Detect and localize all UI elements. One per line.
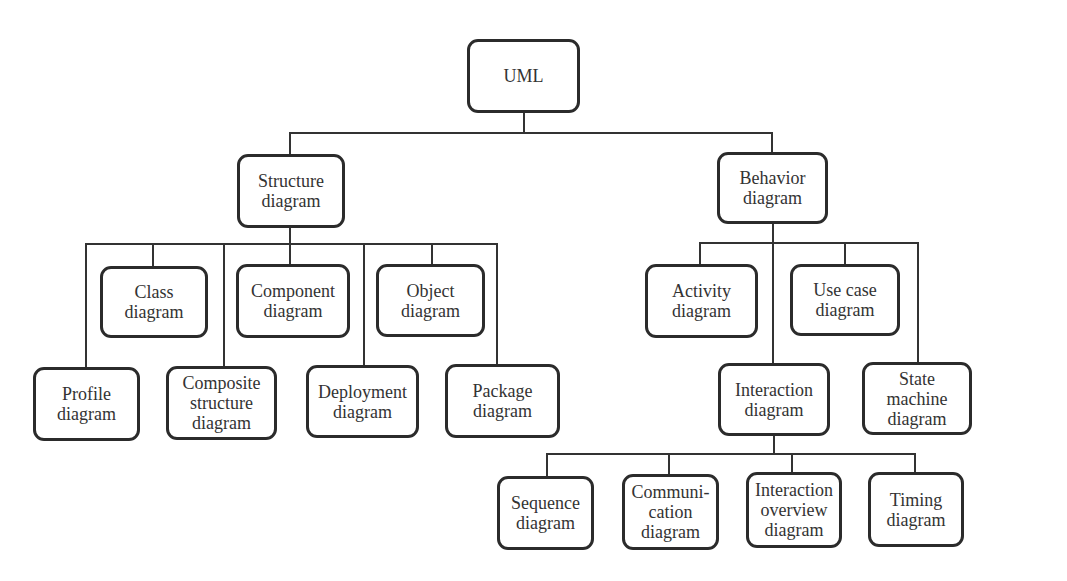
node-interaction-diagram: Interaction diagram <box>718 363 830 436</box>
node-label: Interaction diagram <box>735 380 813 420</box>
node-label: Class diagram <box>125 282 184 322</box>
node-activity-diagram: Activity diagram <box>645 264 758 338</box>
node-label: Activity diagram <box>672 281 731 321</box>
node-communication-diagram: Communi- cation diagram <box>622 474 719 550</box>
node-sequence-diagram: Sequence diagram <box>497 476 594 550</box>
node-label: Behavior diagram <box>740 168 806 208</box>
node-object-diagram: Object diagram <box>376 264 485 337</box>
node-behavior-diagram: Behavior diagram <box>717 152 828 224</box>
node-state-machine-diagram: State machine diagram <box>862 362 972 435</box>
node-structure-diagram: Structure diagram <box>237 154 345 228</box>
node-label: Timing diagram <box>887 490 946 530</box>
uml-hierarchy-diagram: UML Structure diagram Behavior diagram C… <box>0 0 1067 581</box>
node-label: Sequence diagram <box>511 493 580 533</box>
node-label: Communi- cation diagram <box>631 482 709 542</box>
node-uml: UML <box>467 39 580 113</box>
node-package-diagram: Package diagram <box>445 364 560 438</box>
node-component-diagram: Component diagram <box>236 264 350 338</box>
node-profile-diagram: Profile diagram <box>33 367 140 441</box>
node-label: Composite structure diagram <box>182 373 260 433</box>
node-timing-diagram: Timing diagram <box>868 472 964 547</box>
node-label: UML <box>504 66 544 86</box>
node-class-diagram: Class diagram <box>100 266 208 338</box>
node-deployment-diagram: Deployment diagram <box>306 365 419 438</box>
node-label: Deployment diagram <box>318 382 407 422</box>
node-use-case-diagram: Use case diagram <box>790 264 900 336</box>
node-label: State machine diagram <box>887 369 948 429</box>
node-label: Interaction overview diagram <box>755 480 833 540</box>
node-interaction-overview-diagram: Interaction overview diagram <box>746 472 842 548</box>
node-label: Structure diagram <box>258 171 324 211</box>
node-label: Profile diagram <box>57 384 116 424</box>
node-composite-structure-diagram: Composite structure diagram <box>166 366 277 440</box>
node-label: Object diagram <box>401 281 460 321</box>
node-label: Component diagram <box>251 281 335 321</box>
node-label: Package diagram <box>473 381 533 421</box>
node-label: Use case diagram <box>813 280 876 320</box>
